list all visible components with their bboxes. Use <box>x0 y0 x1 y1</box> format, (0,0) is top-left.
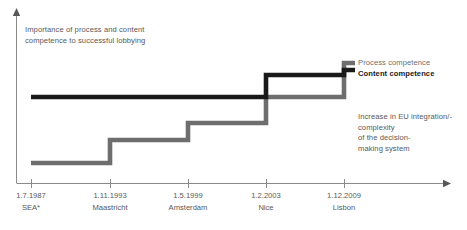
x-tick-date-lisbon: 1.12.2009 <box>327 191 361 200</box>
x-tick-name-nice: Nice <box>251 202 281 213</box>
x-tick-date-maastricht: 1.11.1993 <box>93 191 126 200</box>
y-axis-caption-line-1: Importance of process and content <box>25 25 145 36</box>
x-tick-label-nice: 1.2.2003 Nice <box>251 190 281 213</box>
x-tick-label-sea: 1.7.1987 SEA* <box>16 190 46 213</box>
x-tick-date-nice: 1.2.2003 <box>251 191 281 200</box>
y-axis <box>13 8 20 183</box>
y-axis-caption: Importance of process and content compet… <box>25 25 145 46</box>
series-content-competence <box>31 70 355 97</box>
series-process-competence <box>31 63 355 163</box>
x-tick-name-sea: SEA* <box>16 202 46 213</box>
annotation-line-2: complexity <box>358 123 452 134</box>
x-tick-name-maastricht: Maastricht <box>92 202 127 213</box>
legend-item-content-competence: Content competence <box>358 69 434 80</box>
x-tick-date-amsterdam: 1.5.1999 <box>173 191 203 200</box>
annotation-line-4: making system <box>358 144 452 155</box>
x-tick-name-amsterdam: Amsterdam <box>169 202 208 213</box>
x-tick-label-lisbon: 1.12.2009 Lisbon <box>327 190 361 213</box>
x-tick-label-amsterdam: 1.5.1999 Amsterdam <box>169 190 208 213</box>
x-tick-name-lisbon: Lisbon <box>327 202 361 213</box>
annotation-line-3: of the decision- <box>358 133 452 144</box>
x-axis <box>17 180 452 187</box>
process-competence-annotation: Increase in EU integration/- complexity … <box>358 112 452 154</box>
annotation-line-1: Increase in EU integration/- <box>358 112 452 123</box>
y-axis-caption-line-2: competence to successful lobbying <box>25 36 145 47</box>
x-tick-date-sea: 1.7.1987 <box>16 191 46 200</box>
chart-container: Importance of process and content compet… <box>0 0 467 230</box>
legend-item-process-competence: Process competence <box>358 58 430 69</box>
x-tick-label-maastricht: 1.11.1993 Maastricht <box>92 190 127 213</box>
